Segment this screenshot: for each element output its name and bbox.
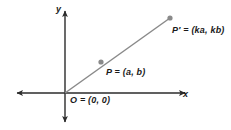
ray-op-prime xyxy=(65,18,170,93)
x-axis-label: x xyxy=(183,90,188,99)
coordinate-plane-figure: y x O = (0, 0) P = (a, b) P′ = (ka, kb) xyxy=(0,0,231,130)
figure-canvas xyxy=(0,0,231,130)
point-p-prime-label: P′ = (ka, kb) xyxy=(172,26,225,35)
y-axis-label: y xyxy=(56,5,61,14)
point-p-label: P = (a, b) xyxy=(106,68,145,77)
point-p-dot xyxy=(98,59,103,64)
origin-label: O = (0, 0) xyxy=(70,96,110,105)
point-p-prime-dot xyxy=(167,15,172,20)
